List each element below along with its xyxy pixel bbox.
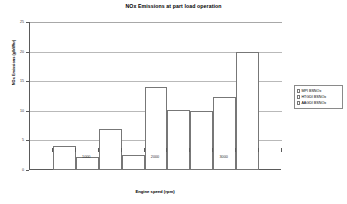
x-axis-tick-mark (189, 148, 190, 152)
x-axis-tick-mark (121, 148, 122, 152)
y-axis-title: NOx Emissions (g/kWhr) (11, 13, 16, 113)
bar (236, 52, 259, 170)
x-axis-tick-mark (144, 148, 145, 152)
y-axis-tick-mark (26, 111, 29, 112)
bar-series-layer (30, 22, 282, 170)
x-axis-tick-mark (258, 148, 259, 152)
chart-container: NOx Emissions at part load operation NOx… (0, 0, 347, 204)
legend-label: MPI BSNOx (301, 89, 321, 94)
x-axis-tick-mark (212, 148, 213, 152)
x-axis-tick-label: 3000 (204, 155, 244, 159)
x-axis-title: Engine speed (rpm) (29, 189, 281, 194)
legend-swatch-icon (297, 95, 300, 98)
bar (213, 97, 236, 170)
y-axis-tick-label: 5 (6, 138, 24, 142)
x-axis-tick-mark (75, 148, 76, 152)
bar (99, 129, 122, 170)
x-axis-tick-label: 2000 (135, 155, 175, 159)
x-axis-tick-mark (52, 148, 53, 152)
y-axis-tick-mark (26, 22, 29, 23)
y-axis-tick-mark (26, 52, 29, 53)
chart-legend: MPI BSNOx HTGDI BSNOx AAGDI BSNOx (294, 85, 343, 109)
y-axis-tick-mark (26, 81, 29, 82)
x-axis-tick-mark (29, 148, 30, 152)
x-axis-tick-mark (166, 148, 167, 152)
y-axis-tick-label: 25 (6, 20, 24, 24)
bar (190, 111, 213, 170)
y-axis-tick-label: 20 (6, 50, 24, 54)
legend-label: HTGDI BSNOx (301, 95, 326, 100)
y-axis-tick-label: 10 (6, 109, 24, 113)
x-axis-tick-mark (98, 148, 99, 152)
bar (167, 110, 190, 170)
x-axis-tick-mark (235, 148, 236, 152)
x-axis-tick-label: 1000 (66, 155, 106, 159)
legend-swatch-icon (297, 101, 300, 104)
legend-label: AAGDI BSNOx (301, 101, 326, 106)
x-axis-tick-mark (281, 148, 282, 152)
y-axis-tick-label: 0 (6, 168, 24, 172)
legend-item[interactable]: AAGDI BSNOx (297, 100, 340, 106)
legend-swatch-icon (297, 89, 300, 92)
y-axis-tick-mark (26, 140, 29, 141)
y-axis-tick-label: 15 (6, 79, 24, 83)
chart-title: NOx Emissions at part load operation (0, 3, 347, 9)
plot-area (29, 22, 281, 170)
y-axis-tick-mark (26, 170, 29, 171)
